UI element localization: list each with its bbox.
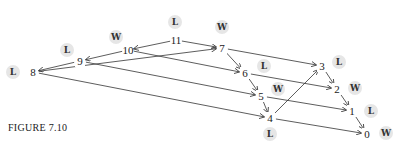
- node-1: 1: [349, 105, 355, 117]
- edge-10-to-9: [86, 51, 122, 59]
- status-badge-1: L: [368, 106, 375, 116]
- node-4: 4: [267, 112, 273, 124]
- edge-2-to-1: [340, 94, 348, 106]
- status-badge-5: W: [272, 84, 284, 94]
- status-badge-4: L: [267, 129, 274, 139]
- node-10: 10: [123, 44, 135, 56]
- node-2: 2: [334, 83, 340, 95]
- status-badge-6: L: [261, 61, 268, 71]
- node-5: 5: [258, 90, 264, 102]
- status-badge-8: L: [10, 67, 17, 77]
- edge-11-to-10: [134, 41, 170, 49]
- node-11: 11: [171, 34, 182, 46]
- edge-3-to-2: [325, 71, 333, 84]
- node-0: 0: [364, 128, 370, 140]
- edge-5-to-1: [267, 97, 346, 110]
- node-8: 8: [30, 66, 36, 78]
- status-badge-7: W: [216, 22, 228, 32]
- node-3: 3: [319, 60, 325, 72]
- edge-10-to-6: [134, 51, 239, 72]
- status-badge-2: W: [349, 83, 361, 93]
- status-badge-9: L: [64, 45, 71, 55]
- node-9: 9: [77, 55, 83, 67]
- edge-7-to-6: [226, 52, 241, 68]
- edges-group: [39, 41, 364, 133]
- node-6: 6: [242, 67, 248, 79]
- edge-1-to-0: [355, 116, 363, 129]
- edge-8-to-4: [39, 73, 264, 117]
- edge-5-to-4: [263, 102, 267, 113]
- edge-4-to-0: [276, 119, 361, 133]
- edge-11-to-7: [182, 41, 216, 47]
- status-badge-10: W: [110, 32, 122, 42]
- status-badge-3: L: [336, 57, 343, 67]
- status-badge-0: W: [380, 128, 392, 138]
- node-7: 7: [219, 42, 225, 54]
- figure-caption: FIGURE 7.10: [8, 122, 67, 133]
- status-badge-11: L: [172, 17, 179, 27]
- edge-6-to-2: [251, 74, 331, 88]
- edge-6-to-5: [248, 78, 257, 91]
- edge-9-to-5: [86, 62, 255, 95]
- nodes-group: 11109876543210: [28, 34, 372, 140]
- edge-7-to-3: [228, 49, 316, 65]
